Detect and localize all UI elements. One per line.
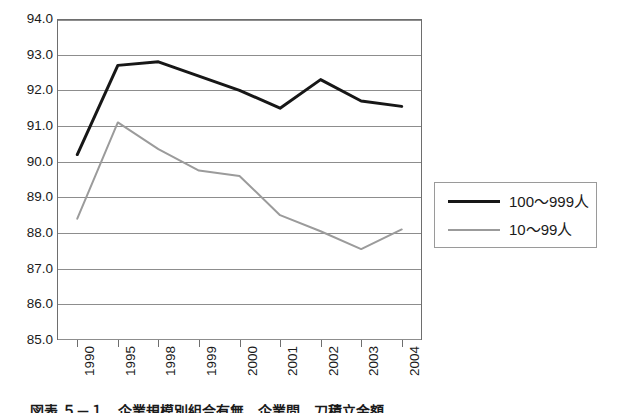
y-axis-tick-label: 89.0 — [3, 190, 53, 204]
x-axis-tick — [321, 340, 322, 347]
x-axis-tick-label: 2000 — [246, 346, 260, 398]
gridline — [58, 197, 421, 198]
x-axis-tick — [240, 340, 241, 347]
legend-swatch-gray-line-icon — [448, 229, 500, 231]
gridline — [58, 304, 421, 305]
gridline — [58, 126, 421, 127]
x-axis-tick-label: 2003 — [367, 346, 381, 398]
x-axis-tick — [199, 340, 200, 347]
y-axis-tick-label: 87.0 — [3, 262, 53, 276]
gridline — [58, 90, 421, 91]
y-axis-tick-label: 86.0 — [3, 297, 53, 311]
gridline — [58, 55, 421, 56]
y-axis-tick-label: 85.0 — [3, 333, 53, 347]
legend-label-10-99: 10〜99人 — [509, 222, 572, 237]
x-axis-labels: 199019951998199920002001200220032004 — [57, 349, 423, 401]
gridline — [58, 269, 421, 270]
x-axis-tick — [118, 340, 119, 347]
x-axis-tick-label: 2004 — [408, 346, 422, 398]
x-axis-tick-label: 2001 — [286, 346, 300, 398]
chart-container: 94.093.092.091.090.089.088.087.086.085.0… — [0, 0, 619, 413]
legend-item-10-99: 10〜99人 — [435, 216, 596, 243]
legend: 100〜999人 10〜99人 — [434, 182, 597, 248]
gridline — [58, 162, 421, 163]
x-axis-tick — [158, 340, 159, 347]
x-axis-tick — [402, 340, 403, 347]
x-axis-tick-label: 2002 — [327, 346, 341, 398]
x-axis-tick — [77, 340, 78, 347]
gridline — [58, 20, 421, 21]
plot-area — [57, 19, 422, 340]
y-axis-tick-label: 88.0 — [3, 226, 53, 240]
x-axis-tick-label: 1998 — [164, 346, 178, 398]
y-axis-tick-label: 94.0 — [3, 12, 53, 26]
figure-caption: 図表 ５－１ 企業規模別組合有無 企業間 刀積立金額 — [30, 404, 590, 413]
legend-swatch-dark-line-icon — [448, 200, 500, 203]
x-axis-tick-label: 1995 — [124, 346, 138, 398]
y-axis-labels: 94.093.092.091.090.089.088.087.086.085.0 — [0, 0, 53, 360]
x-axis-tick-label: 1990 — [83, 346, 97, 398]
y-axis-tick-label: 91.0 — [3, 119, 53, 133]
x-axis-tick-label: 1999 — [205, 346, 219, 398]
y-axis-tick-label: 93.0 — [3, 48, 53, 62]
y-axis-tick-label: 92.0 — [3, 83, 53, 97]
legend-label-100-999: 100〜999人 — [509, 194, 589, 209]
gridline — [58, 233, 421, 234]
legend-item-100-999: 100〜999人 — [435, 188, 596, 215]
x-axis-tick — [280, 340, 281, 347]
y-axis-tick-label: 90.0 — [3, 155, 53, 169]
x-axis-tick — [361, 340, 362, 347]
